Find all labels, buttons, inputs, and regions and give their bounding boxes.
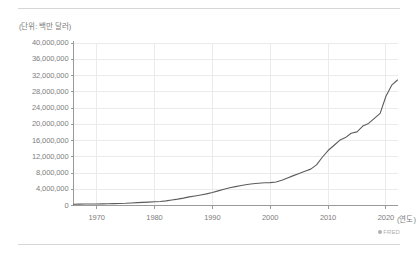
y-tick-label: 36,000,000 [13, 54, 69, 63]
data-series-group [74, 80, 398, 204]
y-tick-label: 12,000,000 [13, 152, 69, 161]
x-axis-title: (연도) [397, 213, 416, 224]
chart-figure: (단위: 백만 달러) 04,000,0008,000,00012,000,00… [0, 0, 419, 254]
y-tick-label: 0 [13, 201, 69, 210]
x-tick-label: 1980 [130, 213, 180, 222]
y-tick-label: 16,000,000 [13, 136, 69, 145]
y-tick-label: 4,000,000 [13, 184, 69, 193]
y-tick-label: 32,000,000 [13, 71, 69, 80]
tick-marks [71, 43, 386, 209]
source-attribution: FRED [378, 229, 400, 235]
x-tick-label: 1990 [187, 213, 237, 222]
plot-area: 04,000,0008,000,00012,000,00016,000,0002… [0, 0, 419, 254]
y-tick-label: 24,000,000 [13, 103, 69, 112]
x-tick-label: 2000 [245, 213, 295, 222]
y-tick-label: 40,000,000 [13, 38, 69, 47]
circle-dot-icon [378, 230, 382, 234]
grid-lines [74, 43, 398, 206]
series-line-0 [74, 80, 398, 204]
x-tick-label: 1970 [72, 213, 122, 222]
y-tick-label: 28,000,000 [13, 87, 69, 96]
axis-lines [74, 41, 398, 206]
x-tick-label: 2010 [303, 213, 353, 222]
y-tick-label: 8,000,000 [13, 168, 69, 177]
source-label: FRED [383, 229, 400, 235]
y-tick-label: 20,000,000 [13, 119, 69, 128]
